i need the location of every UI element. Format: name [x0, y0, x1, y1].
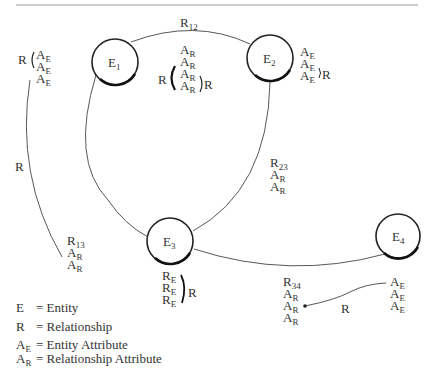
left-group-attributes: AE AE AE	[36, 49, 51, 85]
relationship-r23: R23 AR AR	[270, 157, 288, 193]
legend-entry-relationship-attribute: AR= Relationship Attribute	[16, 352, 162, 366]
relationship-r13: R13 AR AR	[67, 235, 85, 271]
bracket-r12-left	[172, 66, 176, 90]
bracket-left-group	[32, 52, 34, 68]
edge-e1-e3	[85, 75, 148, 237]
bracket-e2-group	[319, 68, 321, 78]
e4-attributes: AE AE AE	[390, 276, 405, 312]
r12-bracket-right-label: R	[204, 79, 213, 91]
e3-relationship-stack: RE RE RE	[162, 270, 176, 306]
bracket-e3-group	[181, 275, 184, 303]
edge-e1-e2	[131, 30, 250, 44]
r34-link-label: R	[341, 303, 350, 315]
link-dot	[303, 304, 307, 308]
legend-entry-relationship: R= Relationship	[16, 320, 162, 339]
entity-e1-label: E1	[108, 57, 120, 69]
legend-entry-entity: E= Entity	[16, 301, 162, 320]
edge-e3-e4	[194, 249, 385, 266]
left-curve-label: R	[15, 161, 24, 173]
relationship-r34: R34 AR AR AR	[283, 276, 301, 324]
edge-e2-e3	[193, 82, 270, 231]
e3-bracket-label: R	[188, 287, 197, 299]
e2-bracket-label: R	[322, 69, 331, 81]
entity-e3-label: E3	[163, 236, 175, 248]
relationship-r12-attributes: AR AR AR AR	[180, 44, 195, 92]
left-group-bracket-label: R	[18, 54, 27, 66]
legend: E= Entity R= Relationship AE= Entity Att…	[16, 301, 162, 366]
r12-bracket-left-label: R	[158, 74, 167, 86]
e2-attributes: AE AE AE	[300, 46, 315, 82]
entity-e4-label: E4	[392, 231, 404, 243]
relationship-r12-label: R12	[180, 17, 198, 29]
entity-e2-label: E2	[263, 53, 275, 65]
legend-entry-entity-attribute: AE= Entity Attribute	[16, 338, 162, 352]
edge-left-attributes	[26, 80, 62, 257]
bracket-r12-right	[200, 76, 202, 92]
